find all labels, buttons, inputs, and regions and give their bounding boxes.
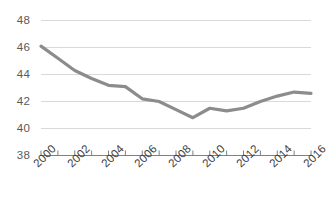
y-tick-label-40: 40 xyxy=(4,122,30,134)
y-tick-label-42: 42 xyxy=(4,95,30,107)
data-series-line xyxy=(41,46,311,118)
y-tick-label-44: 44 xyxy=(4,68,30,80)
y-tick-label-38: 38 xyxy=(4,149,30,161)
y-tick-label-46: 46 xyxy=(4,41,30,53)
y-tick-label-48: 48 xyxy=(4,14,30,26)
